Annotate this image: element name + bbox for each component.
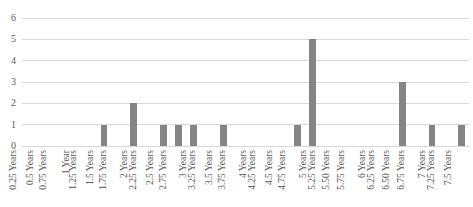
bar-slot: [305, 18, 320, 146]
bar-slot: [186, 18, 201, 146]
bar-slot: [261, 18, 276, 146]
bar: [399, 82, 406, 146]
bar-slot: [350, 18, 365, 146]
bar-slot: [439, 18, 454, 146]
bar: [309, 39, 316, 146]
bar-slot: [82, 18, 97, 146]
bar: [101, 125, 108, 146]
bar: [220, 125, 227, 146]
bar-slot: [246, 18, 261, 146]
bar: [294, 125, 301, 146]
bar-slot: [156, 18, 171, 146]
bar-slot: [335, 18, 350, 146]
x-axis-tick-label: 1.5 Years: [86, 150, 96, 185]
bar-slot: [365, 18, 380, 146]
x-axis-tick-label: 0.5 Years: [27, 150, 37, 185]
y-axis-tick-label: 5: [11, 34, 16, 44]
bar-slot: [37, 18, 52, 146]
x-axis-tick-label: 1.25 Years: [69, 150, 79, 190]
y-axis: 0123456: [0, 18, 20, 146]
bar: [130, 103, 137, 146]
x-axis-tick-label: 5.75 Years: [337, 150, 347, 190]
bar-slot: [141, 18, 156, 146]
bar: [190, 125, 197, 146]
bar-slot: [201, 18, 216, 146]
x-axis-tick-label: 6.75 Years: [397, 150, 407, 190]
bar-slot: [52, 18, 67, 146]
x-axis-tick-label: 2.5 Years: [146, 150, 156, 185]
bar: [175, 125, 182, 146]
x-axis-tick: 7.5 Years: [454, 148, 469, 207]
column-chart: 0123456 0.25 Years0.5 Years0.75 Years1 Y…: [0, 0, 473, 207]
x-axis-tick-label: 0.75 Years: [39, 150, 49, 190]
y-axis-tick-label: 3: [11, 77, 16, 87]
bar-slot: [410, 18, 425, 146]
x-axis-tick-label: 4.25 Years: [248, 150, 258, 190]
x-axis-tick-label: 3.75 Years: [218, 150, 228, 190]
bar-slot: [216, 18, 231, 146]
x-axis-tick-label: 7.5 Years: [444, 150, 454, 185]
bar-slot: [111, 18, 126, 146]
x-axis-tick-label: 3.25 Years: [188, 150, 198, 190]
bar-series: [22, 18, 469, 146]
y-axis-tick-label: 4: [11, 56, 16, 66]
bar: [429, 125, 436, 146]
bar-slot: [424, 18, 439, 146]
bar-slot: [97, 18, 112, 146]
bar: [458, 125, 465, 146]
bar-slot: [320, 18, 335, 146]
x-axis-tick-label: 3.5 Years: [206, 150, 216, 185]
bar-slot: [231, 18, 246, 146]
x-axis-tick-label: 5.50 Years: [323, 150, 333, 190]
bar-slot: [126, 18, 141, 146]
bar-slot: [395, 18, 410, 146]
x-axis-tick-label: 0.25 Years: [10, 150, 20, 190]
bar: [160, 125, 167, 146]
x-axis-tick-label: 7.25 Years: [427, 150, 437, 190]
x-axis-tick-label: 4.5 Years: [265, 150, 275, 185]
x-axis-tick-label: 5.25 Years: [308, 150, 318, 190]
bar-slot: [380, 18, 395, 146]
x-axis-tick-label: 1.75 Years: [99, 150, 109, 190]
bar-slot: [171, 18, 186, 146]
x-axis-tick-label: 2.25 Years: [129, 150, 139, 190]
plot-area: [22, 18, 469, 146]
bar-slot: [67, 18, 82, 146]
y-axis-tick-label: 1: [11, 120, 16, 130]
x-axis-tick-label: 4.75 Years: [278, 150, 288, 190]
bar-slot: [22, 18, 37, 146]
x-axis-tick-label: 2.75 Years: [159, 150, 169, 190]
x-axis-tick-label: 6.25 Years: [367, 150, 377, 190]
y-axis-tick-label: 6: [11, 13, 16, 23]
x-axis-tick-label: 6.50 Years: [382, 150, 392, 190]
x-axis: 0.25 Years0.5 Years0.75 Years1 Year1.25 …: [22, 148, 469, 207]
bar-slot: [454, 18, 469, 146]
bar-slot: [290, 18, 305, 146]
y-axis-tick-label: 2: [11, 98, 16, 108]
bar-slot: [275, 18, 290, 146]
